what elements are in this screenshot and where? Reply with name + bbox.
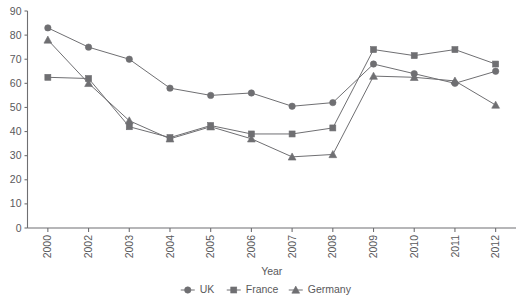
data-point-triangle-marker [329, 151, 337, 158]
data-point-square-marker [330, 125, 336, 131]
y-tick-label: 20 [10, 173, 22, 185]
data-point-square-marker [452, 47, 458, 53]
x-axis-title-group: Year [261, 265, 283, 277]
data-point-square-marker [371, 47, 377, 53]
data-point-square-marker [493, 61, 499, 67]
data-point-circle-marker [207, 92, 213, 98]
data-point-circle-marker [370, 61, 376, 67]
legend-item-uk[interactable]: UK [181, 283, 215, 295]
series-line [48, 40, 496, 157]
y-tick-label: 80 [10, 29, 22, 41]
x-tick-label: 2005 [204, 235, 216, 259]
legend-circle-marker [185, 287, 191, 293]
y-tick-label: 40 [10, 125, 22, 137]
series-france [45, 47, 499, 141]
data-point-circle-marker [85, 44, 91, 50]
data-point-square-marker [411, 53, 417, 59]
series-line [48, 28, 496, 106]
x-tick-label: 2011 [449, 235, 461, 258]
data-point-circle-marker [330, 99, 336, 105]
data-series-group [44, 25, 500, 160]
y-tick-label: 70 [10, 53, 22, 65]
x-tick-label: 2008 [326, 235, 338, 259]
y-tick-label: 90 [10, 5, 22, 17]
chart-canvas: 0102030405060708090 20002002200320042005… [0, 0, 523, 297]
data-point-circle-marker [289, 103, 295, 109]
data-point-circle-marker [248, 90, 254, 96]
data-point-circle-marker [45, 25, 51, 31]
x-axis-title: Year [261, 265, 283, 277]
y-tick-label: 10 [10, 197, 22, 209]
legend-label: UK [200, 283, 215, 295]
y-tick-label: 50 [10, 101, 22, 113]
legend-label: Germany [308, 283, 352, 295]
y-axis: 0102030405060708090 [10, 5, 28, 234]
chart-legend: UKFranceGermany [181, 283, 352, 295]
data-point-circle-marker [492, 68, 498, 74]
y-tick-label: 60 [10, 77, 22, 89]
data-point-circle-marker [126, 56, 132, 62]
legend-item-germany[interactable]: Germany [289, 283, 352, 295]
data-point-triangle-marker [492, 101, 500, 108]
data-point-square-marker [45, 74, 51, 80]
x-tick-label: 2009 [367, 235, 379, 259]
x-tick-label: 2000 [41, 235, 53, 259]
series-line [48, 50, 496, 138]
x-tick-label: 2006 [245, 235, 257, 259]
x-tick-label: 2007 [286, 235, 298, 259]
data-point-square-marker [126, 124, 132, 130]
x-tick-label: 2010 [408, 235, 420, 259]
data-point-triangle-marker [44, 36, 52, 43]
data-point-square-marker [289, 131, 295, 137]
y-tick-label: 0 [16, 222, 22, 234]
x-tick-label: 2004 [164, 235, 176, 259]
series-uk [45, 25, 499, 110]
y-tick-label: 30 [10, 149, 22, 161]
data-point-circle-marker [167, 85, 173, 91]
line-chart: 0102030405060708090 20002002200320042005… [0, 0, 523, 297]
legend-label: France [246, 283, 279, 295]
legend-square-marker [231, 287, 237, 293]
x-tick-label: 2002 [82, 235, 94, 259]
x-tick-label: 2012 [489, 235, 501, 259]
x-tick-label: 2003 [123, 235, 135, 259]
legend-item-france[interactable]: France [227, 283, 279, 295]
x-axis: 2000200220032004200520062007200820092010… [28, 228, 517, 258]
